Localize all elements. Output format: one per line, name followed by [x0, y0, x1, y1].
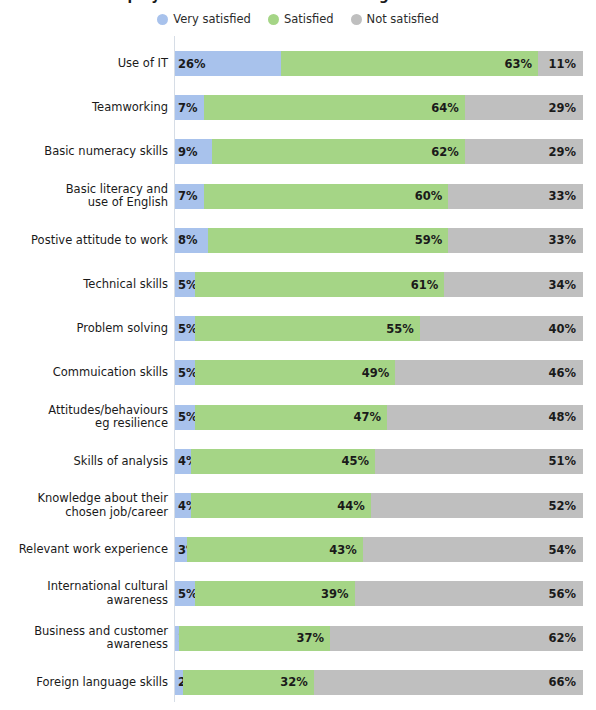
- bar-value-label: 39%: [316, 587, 355, 601]
- bar-segment-satisfied[interactable]: 45%: [191, 449, 375, 474]
- category-label: Relevant work experience: [0, 543, 168, 557]
- stacked-bar: 26%63%11%: [175, 51, 583, 76]
- bar-segment-not-satisfied[interactable]: 54%: [363, 537, 583, 562]
- bar-value-label: 5%: [175, 587, 198, 601]
- category-label: Problem solving: [0, 322, 168, 336]
- legend-item-label: Satisfied: [284, 12, 334, 26]
- bar-value-label: 7%: [175, 189, 198, 203]
- category-label: Skills of analysis: [0, 455, 168, 469]
- bar-segment-satisfied[interactable]: 32%: [183, 670, 314, 695]
- bar-value-label: 46%: [543, 366, 583, 380]
- bar-segment-satisfied[interactable]: 43%: [187, 537, 362, 562]
- bar-value-label: 48%: [543, 410, 583, 424]
- bar-segment-very-satisfied[interactable]: 7%: [175, 184, 204, 209]
- bar-value-label: 8%: [175, 233, 198, 247]
- bar-value-label: 45%: [336, 454, 375, 468]
- stacked-bar: 4%45%51%: [175, 449, 583, 474]
- legend-item[interactable]: Not satisfied: [351, 12, 439, 26]
- bar-segment-not-satisfied[interactable]: 34%: [444, 272, 583, 297]
- chart-row: Technical skills5%61%34%: [0, 269, 596, 300]
- legend-item[interactable]: Very satisfied: [157, 12, 251, 26]
- stacked-bar: 1%37%62%: [175, 626, 583, 651]
- circle-swatch-icon: [157, 14, 168, 25]
- bar-segment-not-satisfied[interactable]: 62%: [330, 626, 583, 651]
- bar-value-label: 40%: [543, 322, 583, 336]
- category-label: Attitudes/behaviours eg resilience: [0, 404, 168, 431]
- bar-value-label: 37%: [292, 631, 331, 645]
- bar-value-label: 62%: [543, 631, 583, 645]
- bar-value-label: 32%: [275, 675, 314, 689]
- bar-segment-satisfied[interactable]: 49%: [195, 360, 395, 385]
- bar-segment-very-satisfied[interactable]: 5%: [175, 316, 195, 341]
- bar-segment-not-satisfied[interactable]: 40%: [420, 316, 583, 341]
- bar-segment-very-satisfied[interactable]: 5%: [175, 360, 195, 385]
- category-label: Basic numeracy skills: [0, 145, 168, 159]
- bar-value-label: 51%: [543, 454, 583, 468]
- bar-segment-very-satisfied[interactable]: 4%: [175, 449, 191, 474]
- bar-segment-not-satisfied[interactable]: 33%: [448, 228, 583, 253]
- bar-segment-satisfied[interactable]: 44%: [191, 493, 371, 518]
- bar-segment-very-satisfied[interactable]: 26%: [175, 51, 281, 76]
- bar-segment-not-satisfied[interactable]: 51%: [375, 449, 583, 474]
- bar-segment-satisfied[interactable]: 64%: [204, 95, 465, 120]
- bar-value-label: 64%: [426, 101, 465, 115]
- bar-segment-very-satisfied[interactable]: 2%: [175, 670, 183, 695]
- chart-row: Knowledge about their chosen job/career4…: [0, 490, 596, 521]
- chart-row: Business and customer awareness1%37%62%: [0, 623, 596, 654]
- bar-segment-satisfied[interactable]: 55%: [195, 316, 419, 341]
- bar-value-label: 62%: [426, 145, 465, 159]
- bar-value-label: 11%: [543, 57, 583, 71]
- bar-segment-not-satisfied[interactable]: 48%: [387, 405, 583, 430]
- bar-segment-very-satisfied[interactable]: 4%: [175, 493, 191, 518]
- bar-segment-very-satisfied[interactable]: 5%: [175, 581, 195, 606]
- category-label: Use of IT: [0, 57, 168, 71]
- bar-segment-not-satisfied[interactable]: 52%: [371, 493, 583, 518]
- bar-segment-very-satisfied[interactable]: 8%: [175, 228, 208, 253]
- category-label: International cultural awareness: [0, 580, 168, 607]
- chart-row: Attitudes/behaviours eg resilience5%47%4…: [0, 402, 596, 433]
- category-label: Commuication skills: [0, 366, 168, 380]
- bar-segment-satisfied[interactable]: 61%: [195, 272, 444, 297]
- category-label: Knowledge about their chosen job/career: [0, 492, 168, 519]
- bar-segment-not-satisfied[interactable]: 29%: [465, 139, 583, 164]
- stacked-bar: 8%59%33%: [175, 228, 583, 253]
- chart-row: Problem solving5%55%40%: [0, 313, 596, 344]
- bar-segment-very-satisfied[interactable]: 5%: [175, 272, 195, 297]
- bar-value-label: 54%: [543, 543, 583, 557]
- category-label: Basic literacy and use of English: [0, 183, 168, 210]
- bar-segment-very-satisfied[interactable]: 9%: [175, 139, 212, 164]
- bar-segment-not-satisfied[interactable]: 46%: [395, 360, 583, 385]
- bar-segment-not-satisfied[interactable]: 66%: [314, 670, 583, 695]
- chart-row: Relevant work experience3%43%54%: [0, 534, 596, 565]
- bar-segment-not-satisfied[interactable]: 56%: [355, 581, 583, 606]
- bar-value-label: 9%: [175, 145, 198, 159]
- chart-row: Basic numeracy skills9%62%29%: [0, 136, 596, 167]
- bar-segment-satisfied[interactable]: 62%: [212, 139, 465, 164]
- bar-value-label: 29%: [543, 101, 583, 115]
- bar-segment-satisfied[interactable]: 60%: [204, 184, 449, 209]
- bar-value-label: 60%: [410, 189, 449, 203]
- chart-row: Teamworking7%64%29%: [0, 92, 596, 123]
- stacked-bar: 5%49%46%: [175, 360, 583, 385]
- bar-segment-very-satisfied[interactable]: 7%: [175, 95, 204, 120]
- bar-segment-not-satisfied[interactable]: 11%: [538, 51, 583, 76]
- bar-value-label: 7%: [175, 101, 198, 115]
- bar-value-label: 33%: [543, 189, 583, 203]
- bar-segment-not-satisfied[interactable]: 29%: [465, 95, 583, 120]
- bar-segment-satisfied[interactable]: 47%: [195, 405, 387, 430]
- bar-segment-satisfied[interactable]: 59%: [208, 228, 449, 253]
- bar-segment-satisfied[interactable]: 37%: [179, 626, 330, 651]
- category-label: Technical skills: [0, 278, 168, 292]
- stacked-bar: 3%43%54%: [175, 537, 583, 562]
- bar-segment-very-satisfied[interactable]: 5%: [175, 405, 195, 430]
- bar-segment-not-satisfied[interactable]: 33%: [448, 184, 583, 209]
- bar-value-label: 26%: [175, 57, 206, 71]
- bar-segment-very-satisfied[interactable]: 3%: [175, 537, 187, 562]
- category-label: Foreign language skills: [0, 676, 168, 690]
- bar-segment-satisfied[interactable]: 39%: [195, 581, 354, 606]
- category-label: Teamworking: [0, 101, 168, 115]
- legend-item[interactable]: Satisfied: [268, 12, 334, 26]
- bar-segment-satisfied[interactable]: 63%: [281, 51, 538, 76]
- stacked-bar: 7%60%33%: [175, 184, 583, 209]
- chart-row: Commuication skills5%49%46%: [0, 357, 596, 388]
